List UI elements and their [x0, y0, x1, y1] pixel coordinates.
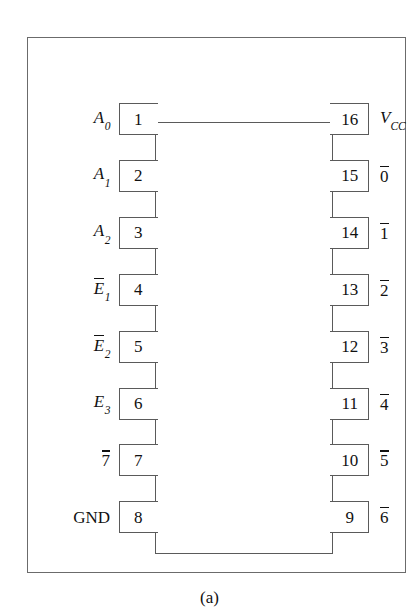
figure-border-frame: A01A12A23E14E25E3677GND8 16VCC1501411321… [27, 37, 406, 573]
pin-signal-label: 5 [380, 451, 389, 469]
pin-signal-label: 0 [380, 167, 389, 185]
pin-number-pad[interactable]: 14 [330, 217, 369, 249]
pin-number-pad[interactable]: 13 [330, 274, 369, 306]
pin-row[interactable]: 77 [48, 444, 158, 476]
pin-signal-label: A2 [94, 222, 110, 243]
pin-row[interactable]: E14 [48, 274, 158, 306]
pin-number-pad[interactable]: 9 [330, 501, 369, 533]
pin-row[interactable]: 114 [330, 388, 419, 420]
pin-signal-label: GND [73, 509, 110, 526]
pin-number-pad[interactable]: 1 [119, 103, 158, 135]
pin-number-pad[interactable]: 3 [119, 217, 158, 249]
pin-number-pad[interactable]: 2 [119, 160, 158, 192]
overbar-icon: 3 [380, 338, 389, 356]
pin-signal-label: E2 [94, 336, 110, 358]
pin-row[interactable]: E36 [48, 388, 158, 420]
pin-signal-label: A1 [94, 165, 110, 186]
pin-row[interactable]: 16VCC [330, 103, 419, 135]
pin-row[interactable]: 150 [330, 160, 419, 192]
overbar-icon: E [94, 279, 104, 297]
pin-number-pad[interactable]: 11 [330, 388, 369, 420]
pin-signal-label: VCC [380, 109, 406, 130]
pin-label-subscript: 1 [105, 291, 111, 303]
pin-row[interactable]: 132 [330, 274, 419, 306]
pin-row[interactable]: GND8 [48, 501, 158, 533]
pin-signal-label: 3 [380, 338, 389, 356]
pin-label-subscript: 2 [105, 234, 111, 246]
pin-signal-label: 7 [102, 451, 111, 469]
pin-signal-label: 6 [380, 508, 389, 526]
pin-label-subscript: 3 [105, 404, 111, 416]
overbar-icon: E [94, 336, 104, 354]
pin-label-subscript: 1 [105, 177, 111, 189]
pin-label-subscript: CC [390, 120, 405, 132]
pin-row[interactable]: 105 [330, 444, 419, 476]
pin-number-pad[interactable]: 16 [330, 103, 369, 135]
overbar-icon: 2 [380, 281, 389, 299]
pin-number-pad[interactable]: 15 [330, 160, 369, 192]
pin-number-pad[interactable]: 4 [119, 274, 158, 306]
pin-row[interactable]: A01 [48, 103, 158, 135]
pin-row[interactable]: 141 [330, 217, 419, 249]
pin-signal-label: 2 [380, 281, 389, 299]
overbar-icon: 0 [380, 167, 389, 185]
pin-number-pad[interactable]: 5 [119, 331, 158, 363]
pin-number-pad[interactable]: 6 [119, 388, 158, 420]
overbar-icon: 6 [380, 508, 389, 526]
pin-label-subscript: 2 [105, 348, 111, 360]
overbar-icon: 4 [380, 395, 389, 413]
pin-number-pad[interactable]: 7 [119, 444, 158, 476]
pin-row[interactable]: E25 [48, 331, 158, 363]
pin-number-pad[interactable]: 12 [330, 331, 369, 363]
pin-number-pad[interactable]: 8 [119, 501, 158, 533]
overbar-icon: 5 [380, 451, 389, 469]
pin-row[interactable]: 96 [330, 501, 419, 533]
pin-number-pad[interactable]: 10 [330, 444, 369, 476]
overbar-icon: 7 [102, 451, 111, 469]
pin-signal-label: A0 [94, 109, 110, 130]
pin-signal-label: E1 [94, 279, 110, 301]
pin-row[interactable]: A23 [48, 217, 158, 249]
pin-signal-label: 4 [380, 395, 389, 413]
pin-signal-label: E3 [94, 393, 110, 414]
pin-signal-label: 1 [380, 224, 389, 242]
pin-row[interactable]: A12 [48, 160, 158, 192]
figure-caption: (a) [0, 588, 419, 608]
ic-chip-body [155, 122, 333, 554]
pin-label-subscript: 0 [105, 120, 111, 132]
pin-row[interactable]: 123 [330, 331, 419, 363]
overbar-icon: 1 [380, 224, 389, 242]
